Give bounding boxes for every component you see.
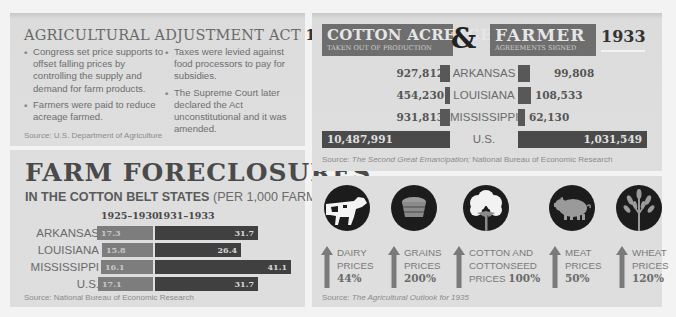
prices-source: Source: The Agricultural Outlook for 193…: [322, 293, 469, 302]
acres-value: 927,812: [397, 67, 445, 79]
bar-value: 31.7: [235, 279, 254, 289]
agreements-bar: 1,031,549: [518, 131, 647, 148]
bar-value: 31.7: [235, 228, 254, 238]
subtitle-bold: IN THE COTTON BELT STATES: [25, 190, 209, 204]
state-label: LOUISIANA: [450, 89, 518, 101]
cotton-acreage-panel: COTTON ACREAGE TAKEN OUT OF PRODUCTION &…: [312, 13, 662, 171]
fc-row-arkansas: ARKANSAS 17.3 31.7: [10, 226, 305, 241]
agreements-bar: [518, 109, 525, 126]
aaa-bullet: The Supreme Court later declared the Act…: [165, 87, 305, 136]
cotton-boll-icon: [463, 185, 509, 231]
price-line: PRICES: [469, 273, 505, 284]
aaa-bullet: Taxes were levied against food processor…: [165, 46, 305, 83]
acres-bar: [440, 65, 450, 82]
up-arrow-icon: [549, 246, 561, 288]
price-line: DAIRY: [337, 246, 373, 259]
state-label: MISSISSIPPI: [450, 111, 518, 123]
aaa-title: AGRICULTURAL ADJUSTMENT ACT 1933: [24, 26, 347, 43]
up-arrow-icon: [616, 246, 628, 288]
agreements-bar: [518, 87, 531, 104]
ca-row-louisiana: 454,230 LOUISIANA 108,533: [312, 87, 662, 104]
source-italic: The Second Great Emancipation;: [352, 155, 470, 164]
pig-icon: [549, 185, 595, 231]
banner-title: FARMER: [495, 25, 585, 45]
aaa-bullet: Congress set price supports to offset fa…: [24, 46, 166, 95]
acres-value: 454,230: [397, 89, 445, 101]
aaa-source: Source: U.S. Department of Agriculture: [24, 131, 162, 140]
fc-row-mississippi: MISSISSIPPI 16.1 41.1: [10, 260, 305, 275]
aaa-panel: AGRICULTURAL ADJUSTMENT ACT 1933 Congres…: [10, 13, 305, 146]
wheat-icon: [616, 185, 662, 231]
price-line: PRICES: [337, 259, 373, 272]
farmer-agreements-banner: FARMER AGREEMENTS SIGNED: [490, 24, 596, 56]
bar-1925-1930: 17.3: [97, 226, 153, 240]
price-label: GRAINS PRICES 200%: [404, 246, 442, 285]
year-underline: [601, 50, 645, 52]
ca-row-arkansas: 927,812 ARKANSAS 99,808: [312, 65, 662, 82]
price-item-meat: MEAT PRICES 50%: [522, 176, 592, 296]
acres-value: 10,487,991: [327, 133, 393, 145]
ampersand: &: [451, 22, 476, 55]
price-line: GRAINS: [404, 246, 442, 259]
cow-icon: [324, 185, 370, 231]
bar-1931-1933: 31.7: [155, 226, 258, 240]
price-line: PRICES: [632, 259, 668, 272]
ca-row-us: 10,487,991 U.S. 1,031,549: [312, 131, 662, 148]
prices-panel: DAIRY PRICES 44% GRAINS PRICES 200% COTT…: [312, 176, 662, 307]
state-label: ARKANSAS: [450, 67, 518, 79]
price-label: WHEAT PRICES 120%: [632, 246, 668, 285]
bar-1925-1930: 16.1: [101, 260, 153, 274]
bar-value: 16.1: [105, 262, 124, 272]
fc-row-us: U.S. 17.1 31.7: [10, 277, 305, 292]
up-arrow-icon: [453, 246, 465, 288]
source-prefix: Source:: [322, 293, 352, 302]
agreements-value: 1,031,549: [584, 133, 642, 145]
ca-row-mississippi: 931,813 MISSISSIPPI 62,130: [312, 109, 662, 126]
aaa-bullet: Farmers were paid to reduce acreage farm…: [24, 99, 166, 123]
acreage-year: 1933: [601, 27, 646, 46]
banner-subtitle: TAKEN OUT OF PRODUCTION: [327, 44, 432, 52]
bar-value: 17.3: [101, 228, 120, 238]
agreements-value: 62,130: [529, 111, 569, 123]
col-header-1925-1930: 1925–1930: [101, 210, 159, 221]
bar-value: 17.1: [102, 279, 121, 289]
acres-value: 931,813: [397, 111, 445, 123]
agreements-value: 108,533: [535, 89, 583, 101]
state-label: U.S.: [450, 133, 518, 145]
aaa-title-text: AGRICULTURAL ADJUSTMENT ACT: [24, 27, 301, 43]
bar-1925-1930: 17.1: [98, 277, 153, 291]
row-label: U.S.: [77, 278, 99, 290]
agreements-bar: [518, 65, 530, 82]
up-arrow-icon: [321, 246, 333, 288]
source-italic: The Agricultural Outlook for 1935: [352, 293, 469, 302]
grain-basket-icon: [391, 185, 437, 231]
price-pct: 120%: [632, 272, 668, 285]
aaa-bullets-right: Taxes were levied against food processor…: [165, 46, 305, 139]
bar-value: 41.1: [268, 262, 287, 272]
row-label: ARKANSAS: [36, 227, 99, 239]
source-prefix: Source:: [322, 155, 352, 164]
price-line: PRICES: [404, 259, 442, 272]
price-item-dairy: DAIRY PRICES 44%: [319, 176, 389, 296]
acres-bar: [440, 109, 450, 126]
acres-bar: 10,487,991: [322, 131, 450, 148]
row-label: LOUISIANA: [38, 244, 99, 256]
price-item-grains: GRAINS PRICES 200%: [386, 176, 456, 296]
row-label: MISSISSIPPI: [31, 261, 99, 273]
bar-1931-1933: 26.4: [155, 243, 241, 257]
price-pct: 44%: [337, 272, 373, 285]
banner-subtitle: AGREEMENTS SIGNED: [495, 44, 576, 52]
foreclosures-panel: FARM FORECLOSURES IN THE COTTON BELT STA…: [10, 150, 305, 307]
up-arrow-icon: [388, 246, 400, 288]
acreage-source: Source: The Second Great Emancipation; N…: [322, 155, 612, 164]
bar-1931-1933: 31.7: [155, 277, 258, 291]
bar-value: 26.4: [218, 245, 237, 255]
price-pct: 200%: [404, 272, 442, 285]
col-header-1931-1933: 1931–1933: [157, 210, 215, 221]
bar-1925-1930: 15.8: [102, 243, 153, 257]
price-line: WHEAT: [632, 246, 668, 259]
foreclosures-subtitle: IN THE COTTON BELT STATES (PER 1,000 FAR…: [25, 190, 329, 204]
bar-1931-1933: 41.1: [155, 260, 291, 274]
price-label: DAIRY PRICES 44%: [337, 246, 373, 285]
cotton-acreage-banner: COTTON ACREAGE TAKEN OUT OF PRODUCTION: [322, 24, 453, 56]
